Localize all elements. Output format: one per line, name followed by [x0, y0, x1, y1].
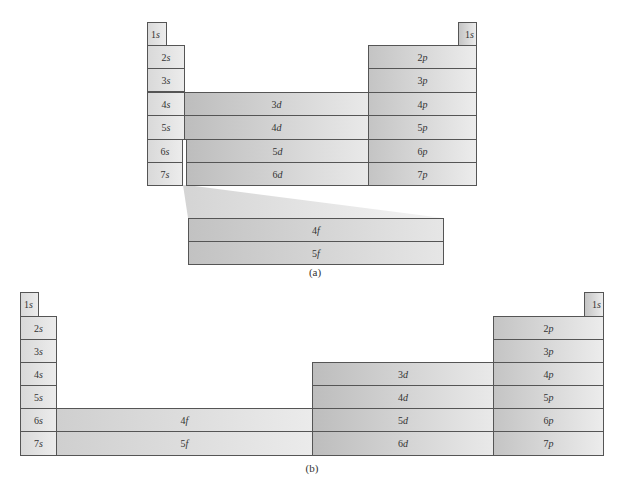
- orbital-5d: 5d: [186, 139, 369, 163]
- orbital-4f: 4f: [188, 218, 444, 242]
- orbital-7p: 7p: [493, 431, 604, 456]
- orbital-7s: 7s: [20, 431, 57, 456]
- orbital-4s: 4s: [147, 92, 185, 116]
- orbital-2p: 2p: [493, 316, 604, 340]
- orbital-1s-h: 1s: [147, 22, 167, 46]
- orbital-4d: 4d: [184, 115, 369, 140]
- orbital-2p: 2p: [368, 45, 477, 69]
- orbital-6s: 6s: [20, 408, 57, 432]
- orbital-4f: 4f: [56, 408, 313, 432]
- orbital-5p: 5p: [368, 115, 477, 140]
- orbital-5s: 5s: [20, 385, 57, 409]
- caption-a: (a): [285, 266, 345, 278]
- orbital-5f: 5f: [56, 431, 313, 456]
- orbital-2s: 2s: [20, 316, 57, 340]
- orbital-4d: 4d: [312, 385, 494, 409]
- orbital-6d: 6d: [186, 162, 369, 186]
- orbital-6p: 6p: [493, 408, 604, 432]
- orbital-1s-he: 1s: [458, 22, 477, 46]
- orbital-7p: 7p: [368, 162, 477, 186]
- orbital-6s: 6s: [147, 139, 183, 163]
- orbital-6p: 6p: [368, 139, 477, 163]
- orbital-3s: 3s: [20, 339, 57, 363]
- orbital-3p: 3p: [368, 68, 477, 93]
- orbital-3p: 3p: [493, 339, 604, 363]
- orbital-3s: 3s: [147, 68, 185, 92]
- orbital-2s: 2s: [147, 45, 185, 69]
- orbital-3d: 3d: [312, 362, 494, 386]
- orbital-5p: 5p: [493, 385, 604, 409]
- orbital-5d: 5d: [312, 408, 494, 432]
- orbital-5s: 5s: [147, 115, 185, 140]
- orbital-4p: 4p: [368, 92, 477, 116]
- orbital-5f: 5f: [188, 241, 444, 265]
- orbital-7s: 7s: [147, 162, 183, 186]
- orbital-4p: 4p: [493, 362, 604, 386]
- orbital-1s-h: 1s: [20, 292, 39, 317]
- orbital-3d: 3d: [184, 92, 369, 116]
- orbital-6d: 6d: [312, 431, 494, 456]
- orbital-4s: 4s: [20, 362, 57, 386]
- caption-b: (b): [282, 462, 342, 474]
- orbital-1s-he: 1s: [584, 292, 604, 317]
